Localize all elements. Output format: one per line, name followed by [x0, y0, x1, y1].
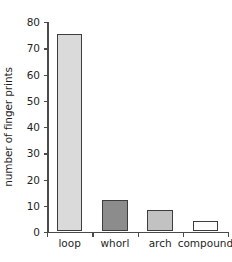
y-tick-label: 80: [27, 16, 40, 28]
bar-chart-figure: number of finger prints 0102030405060708…: [0, 0, 232, 262]
y-tick: [44, 101, 49, 102]
y-tick-label: 10: [27, 200, 40, 212]
x-tick-label: arch: [149, 237, 172, 249]
x-tick: [228, 232, 229, 237]
bar: [102, 200, 127, 232]
plot-area: 01020304050607080 loopwhorlarchcompound: [47, 22, 228, 232]
y-tick-label: 40: [27, 121, 40, 133]
y-tick: [44, 22, 49, 23]
y-tick-label: 0: [33, 226, 40, 238]
y-tick: [44, 206, 49, 207]
y-tick: [44, 48, 49, 49]
y-axis-label: number of finger prints: [0, 22, 16, 232]
y-tick: [44, 75, 49, 76]
y-tick: [44, 180, 49, 181]
y-tick: [44, 153, 49, 154]
x-tick: [138, 232, 139, 237]
x-tick-label: compound: [178, 237, 232, 249]
x-tick-label: whorl: [100, 237, 129, 249]
y-tick-label: 60: [27, 69, 40, 81]
y-tick: [44, 127, 49, 128]
bar: [147, 210, 172, 231]
bar: [193, 221, 218, 232]
bar: [57, 34, 82, 231]
y-tick-label: 30: [27, 147, 40, 159]
x-tick-label: loop: [58, 237, 80, 249]
x-tick: [183, 232, 184, 237]
y-tick-label: 50: [27, 95, 40, 107]
x-tick: [92, 232, 93, 237]
y-tick-label: 20: [27, 174, 40, 186]
y-tick-label: 70: [27, 42, 40, 54]
x-tick: [47, 232, 48, 237]
